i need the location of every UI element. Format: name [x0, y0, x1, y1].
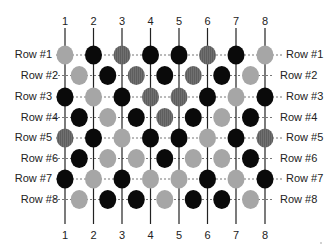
bead-light [213, 108, 230, 127]
bead-black [142, 129, 159, 148]
column-number-top: 1 [57, 15, 73, 27]
bead-black [242, 149, 259, 168]
row-label-left: Row #6 [8, 152, 58, 164]
column-number-bottom: 4 [143, 229, 159, 241]
bead-light [128, 149, 145, 168]
column-number-top: 2 [86, 15, 102, 27]
row-label-left: Row #1 [2, 48, 52, 60]
bead-black [228, 129, 245, 148]
row-label-left: Row #3 [2, 90, 52, 102]
bead-black [71, 149, 88, 168]
row-label-left: Row #8 [8, 193, 58, 205]
row-label-right: Row #8 [280, 193, 317, 205]
bead-black [114, 170, 131, 189]
bead-black [171, 46, 188, 65]
bead-black [128, 108, 145, 127]
column-number-top: 3 [114, 15, 130, 27]
row-label-right: Row #3 [286, 90, 323, 102]
bead-black [85, 46, 102, 65]
column-number-bottom: 1 [57, 229, 73, 241]
bead-black [199, 170, 216, 189]
column-number-bottom: 5 [171, 229, 187, 241]
column-number-bottom: 6 [200, 229, 216, 241]
column-number-top: 4 [143, 15, 159, 27]
bead-black [228, 46, 245, 65]
bead-mid [257, 129, 274, 148]
bead-black [57, 88, 74, 107]
row-label-right: Row #2 [280, 69, 317, 81]
bead-mid [114, 46, 131, 65]
bead-black [128, 190, 145, 209]
bead-light [99, 108, 116, 127]
column-number-top: 8 [257, 15, 273, 27]
bead-mid [199, 46, 216, 65]
bead-light [114, 129, 131, 148]
bead-black [156, 149, 173, 168]
row-label-left: Row #5 [2, 131, 52, 143]
row-label-left: Row #7 [2, 172, 52, 184]
bead-black [242, 108, 259, 127]
bead-mid [171, 88, 188, 107]
row-label-right: Row #6 [280, 152, 317, 164]
bead-black [213, 190, 230, 209]
column-number-bottom: 7 [228, 229, 244, 241]
bead-mid [142, 88, 159, 107]
bead-black [185, 190, 202, 209]
bead-black [57, 170, 74, 189]
pattern-grid [0, 0, 327, 247]
column-number-top: 5 [171, 15, 187, 27]
bead-light [85, 88, 102, 107]
row-label-right: Row #5 [286, 131, 323, 143]
bead-light [71, 66, 88, 85]
bead-light [242, 190, 259, 209]
column-number-top: 7 [228, 15, 244, 27]
bead-mid [57, 129, 74, 148]
row-label-left: Row #2 [8, 69, 58, 81]
bead-black [213, 66, 230, 85]
stray-mark [320, 242, 322, 244]
bead-light [199, 129, 216, 148]
bead-light [213, 149, 230, 168]
bead-black [99, 66, 116, 85]
bead-mid [156, 108, 173, 127]
column-number-bottom: 3 [114, 229, 130, 241]
bead-black [156, 66, 173, 85]
row-label-right: Row #4 [280, 111, 317, 123]
bead-pattern-diagram: 1122334455667788Row #1Row #1Row #2Row #2… [0, 0, 327, 247]
bead-black [257, 88, 274, 107]
bead-black [114, 88, 131, 107]
bead-black [142, 46, 159, 65]
bead-light [71, 190, 88, 209]
bead-light [85, 170, 102, 189]
bead-black [171, 129, 188, 148]
bead-light [142, 170, 159, 189]
column-number-top: 6 [200, 15, 216, 27]
bead-black [199, 88, 216, 107]
bead-black [71, 108, 88, 127]
row-label-right: Row #7 [286, 172, 323, 184]
column-number-bottom: 2 [86, 229, 102, 241]
bead-mid [128, 66, 145, 85]
bead-mid [185, 66, 202, 85]
bead-light [242, 66, 259, 85]
bead-black [185, 108, 202, 127]
bead-black [85, 129, 102, 148]
bead-black [99, 190, 116, 209]
row-label-left: Row #4 [8, 111, 58, 123]
bead-light [228, 88, 245, 107]
bead-light [257, 46, 274, 65]
bead-black [257, 170, 274, 189]
bead-light [57, 46, 74, 65]
bead-light [228, 170, 245, 189]
row-label-right: Row #1 [286, 48, 323, 60]
bead-light [99, 149, 116, 168]
bead-light [171, 170, 188, 189]
bead-light [156, 190, 173, 209]
bead-light [185, 149, 202, 168]
column-number-bottom: 8 [257, 229, 273, 241]
